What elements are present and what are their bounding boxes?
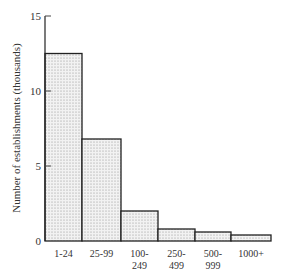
- bar-250-499: [158, 229, 195, 241]
- x-tick-label: 25-99: [90, 248, 113, 259]
- x-tick-label: 100-: [130, 248, 148, 259]
- y-axis-label: Number of establishments (thousands): [10, 43, 23, 213]
- bar-1000+: [231, 235, 271, 241]
- x-category-labels: 1-2425-99100-249250-499500-9991000+: [54, 248, 264, 271]
- y-tick-label: 15: [30, 10, 42, 22]
- y-tick-label: 10: [30, 85, 42, 97]
- x-tick-label: 999: [206, 260, 221, 271]
- bar-25-99: [82, 139, 121, 241]
- x-tick-label: 250-: [167, 248, 185, 259]
- y-tick-label: 0: [36, 235, 42, 247]
- x-tick-label: 500-: [204, 248, 222, 259]
- x-tick-label: 1-24: [54, 248, 72, 259]
- x-tick-label: 499: [169, 260, 184, 271]
- histogram-chart: 051015 1-2425-99100-249250-499500-999100…: [0, 0, 281, 277]
- x-tick-label: 1000+: [238, 248, 264, 259]
- y-tick-label: 5: [36, 160, 42, 172]
- bar-100-249: [121, 211, 158, 241]
- bars: [45, 54, 271, 242]
- x-tick-label: 249: [132, 260, 147, 271]
- bar-1-24: [45, 54, 82, 242]
- bar-500-999: [195, 232, 231, 241]
